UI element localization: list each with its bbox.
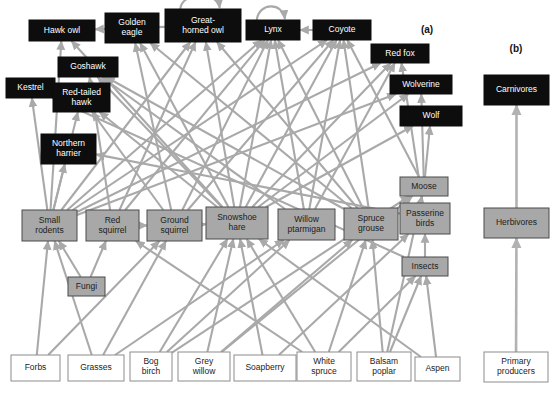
- producer-forbs[interactable]: Forbs: [11, 355, 60, 381]
- food-web-arrow: [103, 241, 166, 355]
- food-web-arrow: [343, 40, 368, 208]
- carnivore-coyote[interactable]: Coyote: [313, 20, 371, 40]
- panelb-herbivores[interactable]: Herbivores: [484, 208, 549, 238]
- carnivore-northern_harrier[interactable]: Northernharrier: [41, 134, 96, 164]
- node-rect: [400, 203, 450, 234]
- node-rect: [484, 352, 548, 382]
- node-rect: [278, 209, 335, 240]
- node-rect: [297, 352, 351, 381]
- node-rect: [178, 352, 230, 381]
- node-rect: [86, 210, 139, 241]
- food-web-nodes: Hawk owlGoldeneagleGreat-horned owlLynxC…: [6, 9, 549, 382]
- node-rect: [53, 83, 110, 112]
- food-web-arrow: [98, 77, 222, 207]
- carnivore-red_fox[interactable]: Red fox: [371, 44, 429, 63]
- food-web-arrow: [426, 276, 436, 357]
- producer-aspen[interactable]: Aspen: [415, 357, 460, 381]
- carnivore-lynx[interactable]: Lynx: [246, 20, 300, 40]
- herbivore-willow_ptarmigan[interactable]: Willowptarmigan: [278, 209, 335, 240]
- node-rect: [390, 75, 452, 94]
- node-rect: [206, 207, 268, 239]
- node-rect: [29, 20, 95, 41]
- food-web-arrow: [136, 241, 303, 352]
- producer-white_spruce[interactable]: Whitespruce: [297, 352, 351, 381]
- panel-label-a: (a): [421, 24, 433, 35]
- food-web-arrow: [91, 241, 106, 277]
- node-rect: [105, 13, 159, 43]
- node-rect: [400, 106, 462, 126]
- food-web-arrow: [55, 241, 92, 355]
- food-web-arrow: [425, 126, 430, 177]
- panelb-primary_producers[interactable]: Primaryproducers: [484, 352, 548, 382]
- carnivore-goshawk[interactable]: Goshawk: [58, 57, 118, 77]
- node-rect: [400, 177, 448, 196]
- food-web-arrow: [372, 240, 382, 352]
- node-rect: [22, 210, 77, 241]
- panelb-carnivores[interactable]: Carnivores: [484, 75, 549, 105]
- carnivore-golden_eagle[interactable]: Goldeneagle: [105, 13, 159, 43]
- carnivore-wolverine[interactable]: Wolverine: [390, 75, 452, 94]
- node-rect: [313, 20, 371, 40]
- node-rect: [58, 57, 118, 77]
- node-rect: [357, 352, 411, 381]
- herbivore-passerine_birds[interactable]: Passerinebirds: [400, 203, 450, 234]
- carnivore-hawk_owl[interactable]: Hawk owl: [29, 20, 95, 41]
- node-rect: [147, 210, 202, 241]
- producer-bog_birch[interactable]: Bogbirch: [130, 352, 172, 381]
- food-web-arrow: [37, 241, 48, 355]
- node-rect: [234, 355, 296, 381]
- food-web-arrow: [48, 241, 159, 355]
- node-rect: [246, 20, 300, 40]
- producer-balsam_poplar[interactable]: Balsampoplar: [357, 352, 411, 381]
- node-rect: [484, 208, 549, 238]
- herbivore-small_rodents[interactable]: Smallrodents: [22, 210, 77, 241]
- herbivore-red_squirrel[interactable]: Redsquirrel: [86, 210, 139, 241]
- panel-labels: (a)(b): [421, 24, 523, 54]
- carnivore-red_tailed_hawk[interactable]: Red-tailedhawk: [53, 83, 110, 112]
- food-web-arrow: [53, 164, 64, 210]
- node-rect: [484, 75, 549, 105]
- carnivore-kestrel[interactable]: Kestrel: [6, 78, 55, 98]
- food-web-arrow: [329, 240, 366, 352]
- node-rect: [68, 277, 105, 296]
- food-web-arrow: [257, 6, 285, 20]
- food-web-arrow: [59, 241, 81, 277]
- node-rect: [402, 257, 448, 276]
- food-web-figure: Hawk owlGoldeneagleGreat-horned owlLynxC…: [0, 0, 553, 394]
- node-rect: [68, 355, 124, 381]
- herbivore-insects[interactable]: Insects: [402, 257, 448, 276]
- carnivore-wolf[interactable]: Wolf: [400, 106, 462, 126]
- producer-soapberry[interactable]: Soapberry: [234, 355, 296, 381]
- node-rect: [130, 352, 172, 381]
- herbivore-ground_squirrel[interactable]: Groundsquirrel: [147, 210, 202, 241]
- herbivore-snowshoe_hare[interactable]: Snowshoehare: [206, 207, 268, 239]
- node-rect: [415, 357, 460, 381]
- herbivore-spruce_grouse[interactable]: Sprucegrouse: [344, 208, 398, 240]
- herbivore-fungi[interactable]: Fungi: [68, 277, 105, 296]
- producer-grasses[interactable]: Grasses: [68, 355, 124, 381]
- panel-label-b: (b): [510, 43, 523, 54]
- carnivore-great_horned_owl[interactable]: Great-horned owl: [165, 9, 241, 42]
- herbivore-moose[interactable]: Moose: [400, 177, 448, 196]
- node-rect: [41, 134, 96, 164]
- node-rect: [371, 44, 429, 63]
- food-web-arrow: [266, 126, 413, 207]
- food-web-arrow: [180, 0, 220, 9]
- node-rect: [344, 208, 398, 240]
- producer-grey_willow[interactable]: Greywillow: [178, 352, 230, 381]
- food-web-arrow: [252, 63, 390, 207]
- node-rect: [6, 78, 55, 98]
- node-rect: [11, 355, 60, 381]
- node-rect: [165, 9, 241, 42]
